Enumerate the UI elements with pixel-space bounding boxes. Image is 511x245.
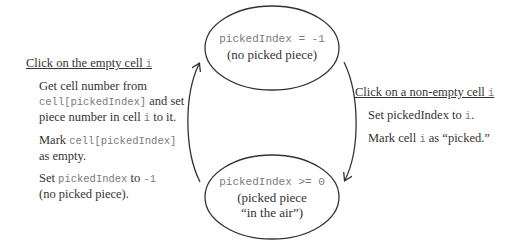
transition-drop-title-var: i bbox=[146, 58, 152, 70]
step-text: as “picked.” bbox=[426, 131, 490, 145]
step-text: to it. bbox=[150, 110, 176, 124]
transition-drop-step-2: Mark cell[pickedIndex] as empty. bbox=[39, 133, 196, 164]
step-text: . bbox=[471, 108, 474, 122]
transition-drop-step-3: Set pickedIndex to -1 (no picked piece). bbox=[39, 171, 196, 202]
step-code: -1 bbox=[143, 173, 156, 185]
state-idle-code: pickedIndex = -1 bbox=[205, 32, 339, 47]
transition-pick-title-var: i bbox=[488, 87, 494, 99]
step-text: Mark cell bbox=[368, 131, 419, 145]
transition-drop-title: Click on the empty cell i bbox=[26, 56, 196, 72]
step-text: Get cell number from bbox=[39, 79, 147, 93]
step-text: (no picked piece). bbox=[39, 187, 129, 201]
transition-pick-title: Click on a non-empty cell i bbox=[355, 85, 511, 101]
step-text: Set pickedIndex to bbox=[368, 108, 465, 122]
transition-pick-step-1: Set pickedIndex to i. bbox=[368, 108, 511, 124]
state-picked-code: pickedIndex >= 0 bbox=[205, 175, 339, 190]
state-idle-caption: (no picked piece) bbox=[205, 47, 339, 62]
state-picked-caption-1: (picked piece bbox=[205, 190, 339, 205]
transition-drop-title-text: Click on the empty cell bbox=[26, 56, 146, 70]
state-idle-label: pickedIndex = -1 (no picked piece) bbox=[205, 32, 339, 62]
step-code: pickedIndex bbox=[58, 173, 127, 185]
step-text: Set bbox=[39, 171, 58, 185]
step-text: as empty. bbox=[39, 149, 86, 163]
transition-pick-title-text: Click on a non-empty cell bbox=[355, 85, 488, 99]
transition-pick-step-2: Mark cell i as “picked.” bbox=[368, 131, 511, 147]
step-text: Mark bbox=[39, 133, 69, 147]
state-picked-caption-2: “in the air”) bbox=[205, 205, 339, 220]
step-text: to bbox=[127, 171, 143, 185]
step-code: cell[pickedIndex] bbox=[39, 96, 146, 108]
step-code: cell[pickedIndex] bbox=[69, 135, 176, 147]
transition-pick: Click on a non-empty cell i Set pickedIn… bbox=[355, 85, 511, 154]
transition-drop: Click on the empty cell i Get cell numbe… bbox=[26, 56, 196, 209]
transition-drop-step-1: Get cell number fromcell[pickedIndex] an… bbox=[39, 79, 196, 126]
state-picked-label: pickedIndex >= 0 (picked piece “in the a… bbox=[205, 175, 339, 220]
